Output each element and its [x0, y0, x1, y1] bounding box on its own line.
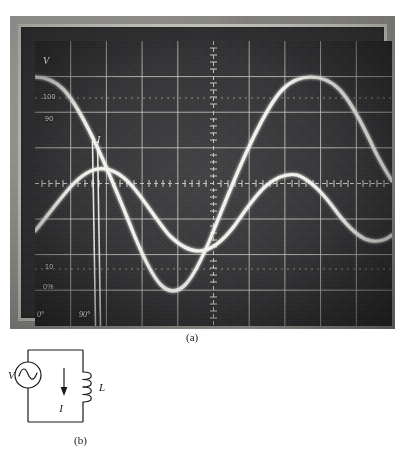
current-label: I [58, 402, 64, 414]
inductor-label: L [98, 381, 105, 393]
current-trace-label: I [97, 134, 100, 145]
scope-screen: 100 90 10 0% V I 0° 90° [35, 41, 392, 326]
circuit-schematic: V L I [6, 340, 206, 440]
scope-graticule-and-traces [35, 41, 392, 326]
scope-bezel: 100 90 10 0% V I 0° 90° [18, 24, 387, 321]
current-arrow-icon [61, 368, 68, 396]
oscilloscope-photograph: 100 90 10 0% V I 0° 90° [10, 16, 395, 329]
inductor-icon [83, 372, 91, 402]
time-axis-label-0deg: 0° [37, 310, 44, 319]
circuit-wires [28, 350, 83, 422]
graticule-label-0-percent: 0% [43, 283, 54, 290]
graticule-label-100: 100 [43, 93, 56, 100]
panel-b-caption: (b) [74, 434, 87, 446]
ac-source-icon [15, 362, 41, 388]
time-axis-label-90deg: 90° [79, 310, 90, 319]
graticule-label-90: 90 [45, 115, 53, 122]
voltage-trace-label: V [43, 55, 49, 66]
graticule-label-10: 10 [45, 263, 53, 270]
